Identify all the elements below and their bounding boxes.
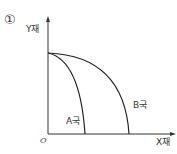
x-axis-label: X재 [156,137,170,147]
curve-b-label: B국 [133,100,147,110]
ppf-diagram: ① Y재 X재 O A국 B국 [0,0,177,154]
x-axis-arrow-icon [170,132,176,136]
curve-a-label: A국 [66,116,80,126]
origin-label: O [40,136,47,145]
problem-number: ① [4,12,16,27]
curve-b [48,53,129,134]
y-axis-label: Y재 [25,24,40,34]
y-axis-arrow-icon [46,16,50,22]
